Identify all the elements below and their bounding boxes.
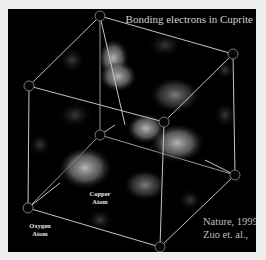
atom-icon [230, 170, 240, 180]
atom-icon [159, 117, 169, 127]
copper-label-line1: Copper [80, 190, 120, 198]
oxygen-atom-label: Oxygen Atom [20, 222, 60, 238]
credit-authors: Zuo et. al., [203, 229, 248, 240]
figure-title: Bonding electrons in Cuprite [126, 13, 253, 25]
copper-atom-label: Copper Atom [80, 190, 120, 206]
atom-icon [23, 203, 33, 213]
atom-icon [228, 49, 238, 59]
cuprite-figure: Bonding electrons in Cuprite Copper Atom… [8, 9, 256, 252]
oxygen-label-line1: Oxygen [20, 222, 60, 230]
oxygen-label-line2: Atom [20, 230, 60, 238]
copper-label-line2: Atom [80, 198, 120, 206]
atom-icon [24, 81, 34, 91]
credit-journal: Nature, 1999 [203, 216, 256, 227]
atom-icon [155, 242, 165, 252]
atom-icon [95, 130, 105, 140]
atom-icon [95, 11, 105, 21]
